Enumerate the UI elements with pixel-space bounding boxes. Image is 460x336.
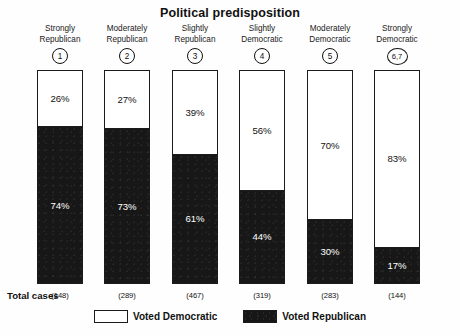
bar-segment-republican-5: 30% xyxy=(308,219,352,283)
stacked-bar-6: 83% 17% xyxy=(374,70,420,284)
bar-value-democratic-4: 56% xyxy=(252,125,271,136)
scale-code-6: 6,7 xyxy=(387,48,408,65)
bar-value-democratic-2: 27% xyxy=(117,94,136,105)
legend-swatch-republican-icon xyxy=(243,310,277,323)
bar-segment-democratic-5: 70% xyxy=(308,71,352,219)
category-label-3: Slightly Republican xyxy=(161,24,229,46)
bar-segment-democratic-4: 56% xyxy=(240,71,284,190)
legend-label-republican: Voted Republican xyxy=(282,311,366,322)
scale-code-wrap-6: 6,7 xyxy=(363,46,431,66)
stacked-bar-5: 70% 30% xyxy=(307,70,353,284)
chart-title: Political predisposition xyxy=(0,6,460,20)
bar-value-democratic-6: 83% xyxy=(387,153,406,164)
total-cases-value-1: (148) xyxy=(26,291,94,300)
category-label-5: Moderately Democratic xyxy=(296,24,364,46)
category-label-1-line1: Strongly xyxy=(45,24,75,33)
category-label-6-line1: Strongly xyxy=(382,24,412,33)
category-label-5-line2: Democratic xyxy=(296,35,364,46)
bar-value-republican-3: 61% xyxy=(185,213,204,224)
category-label-3-line2: Republican xyxy=(161,35,229,46)
scale-code-4: 4 xyxy=(254,48,270,64)
bar-value-republican-2: 73% xyxy=(117,201,136,212)
category-label-3-line1: Slightly xyxy=(182,24,208,33)
category-label-2-line2: Republican xyxy=(93,35,161,46)
scale-code-wrap-3: 3 xyxy=(161,46,229,66)
category-label-5-line1: Moderately xyxy=(310,24,351,33)
stacked-bar-4: 56% 44% xyxy=(239,70,285,284)
category-label-2: Moderately Republican xyxy=(93,24,161,46)
category-label-1: Strongly Republican xyxy=(26,24,94,46)
chart-column-slightly-republican: Slightly Republican 3 39% 61% xyxy=(161,24,229,284)
legend-swatch-democratic-icon xyxy=(94,310,128,323)
total-cases-value-3: (467) xyxy=(161,291,229,300)
stacked-bar-2: 27% 73% xyxy=(104,70,150,284)
category-label-4-line1: Slightly xyxy=(249,24,275,33)
bar-segment-democratic-1: 26% xyxy=(38,71,82,126)
bar-segment-republican-3: 61% xyxy=(173,154,217,283)
bar-segment-democratic-6: 83% xyxy=(375,71,419,247)
bar-value-republican-1: 74% xyxy=(50,200,69,211)
chart-column-slightly-democratic: Slightly Democratic 4 56% 44% xyxy=(228,24,296,284)
scale-code-wrap-5: 5 xyxy=(296,46,364,66)
bar-value-republican-6: 17% xyxy=(387,260,406,271)
scale-code-1: 1 xyxy=(52,48,68,64)
chart-column-moderately-democratic: Moderately Democratic 5 70% 30% xyxy=(296,24,364,284)
bar-value-democratic-1: 26% xyxy=(50,93,69,104)
scale-code-wrap-4: 4 xyxy=(228,46,296,66)
scale-code-wrap-1: 1 xyxy=(26,46,94,66)
total-cases-value-2: (289) xyxy=(93,291,161,300)
total-cases-value-6: (144) xyxy=(363,291,431,300)
bar-value-republican-5: 30% xyxy=(320,246,339,257)
chart-column-moderately-republican: Moderately Republican 2 27% 73% xyxy=(93,24,161,284)
bar-segment-republican-4: 44% xyxy=(240,190,284,283)
legend-label-democratic: Voted Democratic xyxy=(133,311,217,322)
bar-segment-democratic-2: 27% xyxy=(105,71,149,128)
category-label-4-line2: Democratic xyxy=(228,35,296,46)
bar-value-democratic-3: 39% xyxy=(185,107,204,118)
category-label-6: Strongly Democratic xyxy=(363,24,431,46)
chart-figure: Political predisposition Strongly Republ… xyxy=(0,0,460,336)
scale-code-2: 2 xyxy=(119,48,135,64)
stacked-bar-1: 26% 74% xyxy=(37,70,83,284)
category-label-4: Slightly Democratic xyxy=(228,24,296,46)
legend-item-voted-democratic: Voted Democratic xyxy=(94,310,217,323)
total-cases-value-4: (319) xyxy=(228,291,296,300)
bar-segment-republican-2: 73% xyxy=(105,128,149,283)
chart-column-strongly-democratic: Strongly Democratic 6,7 83% 17% xyxy=(363,24,431,284)
bar-segment-republican-1: 74% xyxy=(38,126,82,283)
category-label-2-line1: Moderately xyxy=(107,24,148,33)
category-label-6-line2: Democratic xyxy=(363,35,431,46)
category-label-1-line2: Republican xyxy=(26,35,94,46)
bar-value-democratic-5: 70% xyxy=(320,140,339,151)
bar-segment-republican-6: 17% xyxy=(375,247,419,283)
total-cases-value-5: (283) xyxy=(296,291,364,300)
chart-legend: Voted Democratic Voted Republican xyxy=(0,310,460,323)
bar-value-republican-4: 44% xyxy=(252,231,271,242)
stacked-bar-3: 39% 61% xyxy=(172,70,218,284)
bar-segment-democratic-3: 39% xyxy=(173,71,217,154)
scale-code-3: 3 xyxy=(187,48,203,64)
scale-code-wrap-2: 2 xyxy=(93,46,161,66)
legend-item-voted-republican: Voted Republican xyxy=(243,310,366,323)
chart-column-strongly-republican: Strongly Republican 1 26% 74% xyxy=(26,24,94,284)
scale-code-5: 5 xyxy=(322,48,338,64)
